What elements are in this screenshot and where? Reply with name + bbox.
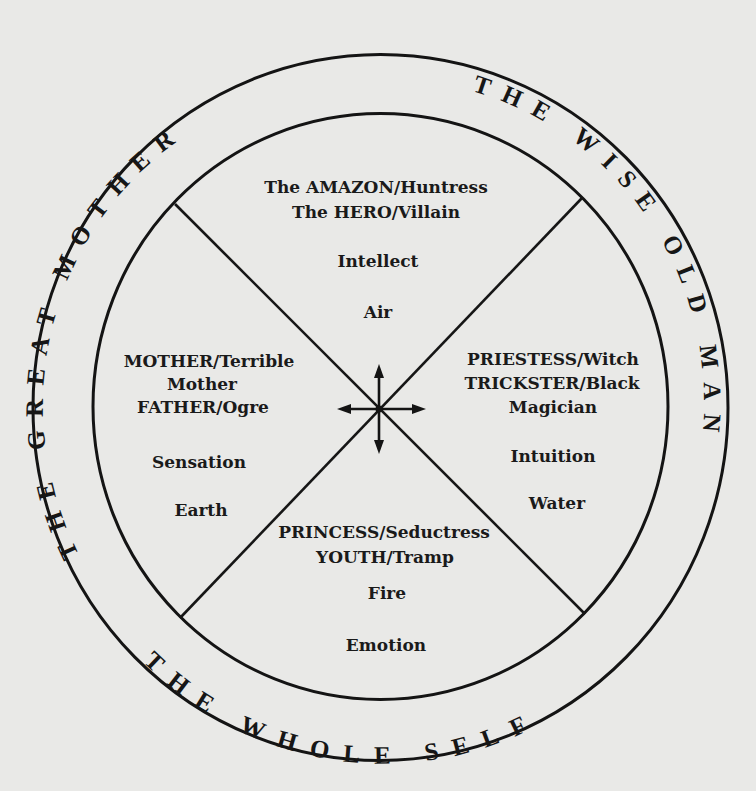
element-label: Earth [174,500,227,520]
archetype-label: PRIESTESS/Witch [467,349,639,369]
archetype-label: FATHER/Ogre [137,397,269,417]
archetype-label: Magician [509,397,597,417]
archetype-label: MOTHER/Terrible [124,351,295,371]
function-label: Emotion [346,635,426,655]
element-label: Water [528,493,586,513]
function-label: Intellect [338,251,419,271]
archetype-label: Mother [167,374,238,394]
archetype-circle-diagram: THE GREAT MOTHER THE WISE OLD MAN THE WH… [0,0,756,791]
archetype-label: PRINCESS/Seductress [278,522,490,542]
archetype-label: The HERO/Villain [292,202,460,222]
element-label: Fire [368,583,406,603]
archetype-label: YOUTH/Tramp [315,547,454,567]
function-label: Sensation [152,452,246,472]
archetype-label: The AMAZON/Huntress [264,177,487,197]
function-label: Intuition [511,446,596,466]
archetype-label: TRICKSTER/Black [464,373,640,393]
element-label: Air [363,302,394,322]
